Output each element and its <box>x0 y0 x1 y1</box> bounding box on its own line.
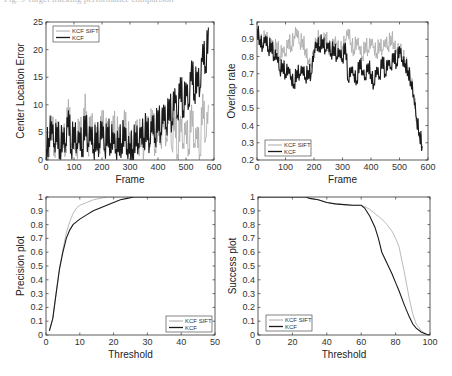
chart-precision-plot: 0102030405000.10.20.30.40.50.60.70.80.91… <box>15 192 220 360</box>
chart-success-plot: 02040608010000.10.20.30.40.50.60.70.80.9… <box>227 192 438 360</box>
legend: KCF SIFTKCF <box>53 26 99 42</box>
y-tick-label: 0.9 <box>30 206 43 216</box>
x-tick-label: 100 <box>66 162 81 172</box>
x-tick-label: 600 <box>206 162 221 172</box>
x-tick-label: 0 <box>43 337 48 347</box>
x-tick-label: 0 <box>254 162 259 172</box>
x-tick-label: 400 <box>363 162 378 172</box>
x-axis-label: Frame <box>116 174 145 185</box>
y-tick-label: 0.4 <box>30 275 43 285</box>
legend: KCF SIFTKCF <box>265 140 311 156</box>
legend-entry: KCF <box>284 149 296 155</box>
y-tick-label: 0.8 <box>241 52 254 62</box>
y-tick-label: 0 <box>38 330 43 340</box>
y-tick-label: 0 <box>250 330 255 340</box>
x-tick-label: 60 <box>356 337 366 347</box>
x-axis-label: Threshold <box>322 349 366 360</box>
chart-center-location-error: 01002003004005006000510152025FrameCenter… <box>15 17 222 185</box>
x-tick-label: 200 <box>94 162 109 172</box>
x-tick-label: 500 <box>178 162 193 172</box>
y-tick-label: 0.5 <box>242 261 255 271</box>
x-tick-label: 100 <box>422 337 437 347</box>
legend: KCF SIFTKCF <box>166 316 212 332</box>
legend-entry: KCF SIFT <box>72 28 99 34</box>
y-axis-label: Precision plot <box>15 236 26 296</box>
x-axis-label: Threshold <box>108 349 152 360</box>
y-tick-label: 0.6 <box>242 247 255 257</box>
y-axis-label: Success plot <box>227 237 238 294</box>
y-tick-label: 0.5 <box>241 103 254 113</box>
y-tick-label: 0.7 <box>242 233 255 243</box>
legend-entry: KCF <box>185 325 197 331</box>
y-tick-label: 15 <box>33 72 43 82</box>
legend-entry: KCF SIFT <box>185 318 212 324</box>
chart-overlap-rate: 01002003004005006000.20.30.40.50.60.70.8… <box>226 17 436 185</box>
x-tick-label: 600 <box>420 162 435 172</box>
x-tick-label: 30 <box>142 337 152 347</box>
legend-entry: KCF <box>285 324 297 330</box>
x-tick-label: 0 <box>255 337 260 347</box>
x-tick-label: 50 <box>210 337 220 347</box>
x-tick-label: 300 <box>335 162 350 172</box>
series-kcf <box>257 26 422 151</box>
y-tick-label: 0.6 <box>30 247 43 257</box>
figure-canvas: 01002003004005006000510152025FrameCenter… <box>0 0 452 376</box>
y-tick-label: 0.1 <box>242 316 255 326</box>
y-tick-label: 1 <box>249 17 254 27</box>
y-tick-label: 20 <box>33 45 43 55</box>
series-kcf-sift <box>49 197 215 331</box>
y-tick-label: 0.3 <box>30 289 43 299</box>
x-tick-label: 80 <box>391 337 401 347</box>
series-kcf <box>49 197 215 331</box>
legend-entry: KCF SIFT <box>285 317 312 323</box>
x-tick-label: 40 <box>322 337 332 347</box>
y-tick-label: 0.2 <box>241 155 254 165</box>
x-tick-label: 0 <box>43 162 48 172</box>
y-tick-label: 0.9 <box>241 34 254 44</box>
y-tick-label: 10 <box>33 100 43 110</box>
legend: KCF SIFTKCF <box>266 315 312 331</box>
y-tick-label: 0.4 <box>242 275 255 285</box>
y-tick-label: 0.7 <box>241 69 254 79</box>
y-axis-label: Center Location Error <box>15 43 26 139</box>
y-tick-label: 0.8 <box>30 220 43 230</box>
axes-box <box>258 197 430 335</box>
y-tick-label: 0.9 <box>242 206 255 216</box>
y-tick-label: 0.3 <box>242 289 255 299</box>
x-tick-label: 200 <box>306 162 321 172</box>
y-tick-label: 0.2 <box>30 302 43 312</box>
series-kcf-sift <box>258 197 430 335</box>
x-tick-label: 300 <box>122 162 137 172</box>
x-tick-label: 20 <box>287 337 297 347</box>
legend-entry: KCF SIFT <box>284 142 311 148</box>
axes-box <box>257 22 428 160</box>
y-tick-label: 0.2 <box>242 302 255 312</box>
y-tick-label: 0.7 <box>30 233 43 243</box>
x-tick-label: 20 <box>109 337 119 347</box>
y-tick-label: 1 <box>38 192 43 202</box>
x-axis-label: Frame <box>328 174 357 185</box>
y-tick-label: 0.8 <box>242 220 255 230</box>
x-tick-label: 400 <box>150 162 165 172</box>
y-tick-label: 0.4 <box>241 121 254 131</box>
series-kcf <box>258 197 430 335</box>
x-tick-label: 100 <box>278 162 293 172</box>
y-tick-label: 0.6 <box>241 86 254 96</box>
series-kcf-sift <box>257 27 422 147</box>
y-axis-label: Overlap rate <box>226 63 237 118</box>
x-tick-label: 500 <box>392 162 407 172</box>
y-tick-label: 5 <box>38 127 43 137</box>
x-tick-label: 40 <box>176 337 186 347</box>
legend-entry: KCF <box>72 35 84 41</box>
y-tick-label: 25 <box>33 17 43 27</box>
x-tick-label: 10 <box>75 337 85 347</box>
y-tick-label: 0 <box>38 155 43 165</box>
y-tick-label: 0.1 <box>30 316 43 326</box>
y-tick-label: 0.5 <box>30 261 43 271</box>
y-tick-label: 0.3 <box>241 138 254 148</box>
y-tick-label: 1 <box>250 192 255 202</box>
